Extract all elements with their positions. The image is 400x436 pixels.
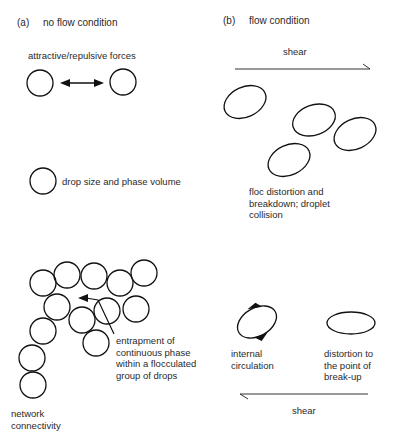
internal-circulation-label: internal circulation: [231, 348, 274, 371]
drop-left: [27, 70, 53, 96]
panel-b-letter: (b): [223, 15, 249, 27]
panel-b-heading: flow condition: [249, 15, 310, 26]
single-drop: [30, 168, 56, 194]
circulation-arrow-bottom-icon: [254, 333, 269, 342]
shear-arrow-right-icon: [235, 64, 370, 69]
drop-right: [110, 69, 136, 95]
entrapment-label: entrapment of continuous phase within a …: [116, 335, 196, 381]
shear-top-label: shear: [283, 46, 307, 58]
panel-a-letter: (a): [17, 17, 43, 29]
shear-bottom-label: shear: [292, 405, 316, 417]
forces-label: attractive/repulsive forces: [28, 50, 136, 62]
panel-a-heading: no flow condition: [43, 17, 118, 28]
drop-size-label: drop size and phase volume: [62, 176, 181, 188]
floc-label: floc distortion and breakdown; droplet c…: [249, 186, 330, 221]
network-label: network connectivity: [11, 408, 61, 431]
panel-b-title: (b)flow condition: [223, 15, 310, 27]
distorted-drops: [219, 79, 382, 183]
elongated-drop: [327, 312, 375, 334]
distortion-label: distortion to the point of break-up: [324, 348, 373, 383]
double-arrow-icon: [60, 79, 104, 87]
shear-arrow-left-icon: [240, 394, 368, 399]
panel-a-title: (a)no flow condition: [17, 17, 118, 29]
circulating-drop: [232, 299, 282, 344]
entrapment-pointer-icon: [78, 294, 114, 334]
